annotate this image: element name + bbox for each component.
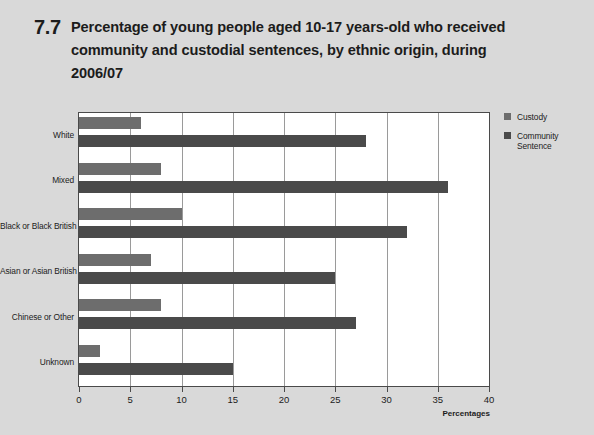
x-axis-tick — [233, 387, 234, 392]
bar-community-sentence — [79, 135, 366, 147]
x-axis-tick — [489, 387, 490, 392]
bar-custody — [79, 345, 100, 357]
x-axis-tick-label: 40 — [484, 394, 495, 405]
bars-layer — [79, 113, 489, 386]
bar-community-sentence — [79, 272, 335, 284]
chart: WhiteMixedBlack or Black BritishAsian or… — [0, 104, 594, 435]
y-axis-label: Unknown — [0, 357, 74, 367]
y-axis-label: White — [0, 130, 74, 140]
x-axis-tick-label: 10 — [176, 394, 187, 405]
x-axis-tick — [335, 387, 336, 392]
x-axis-tick-label: 5 — [128, 394, 133, 405]
bar-custody — [79, 163, 161, 175]
x-axis-tick — [387, 387, 388, 392]
legend: Custody Community Sentence — [504, 112, 590, 160]
bar-group — [79, 341, 489, 387]
legend-swatch-custody-icon — [504, 113, 511, 120]
y-axis-label: Black or Black British — [0, 221, 74, 231]
bar-group — [79, 250, 489, 296]
figure-number: 7.7 — [34, 16, 61, 39]
legend-label-custody: Custody — [517, 112, 547, 122]
x-axis-tick-label: 30 — [381, 394, 392, 405]
bar-custody — [79, 254, 151, 266]
bar-group — [79, 159, 489, 205]
x-axis-tick-label: 0 — [76, 394, 81, 405]
x-axis: Percentages 0510152025303540 — [78, 387, 490, 417]
x-axis-tick — [284, 387, 285, 392]
bar-group — [79, 295, 489, 341]
x-axis-tick — [438, 387, 439, 392]
bar-community-sentence — [79, 181, 448, 193]
bar-custody — [79, 117, 141, 129]
x-axis-tick-label: 25 — [330, 394, 341, 405]
x-axis-tick — [79, 387, 80, 392]
bar-custody — [79, 299, 161, 311]
bar-community-sentence — [79, 226, 407, 238]
x-axis-tick-label: 15 — [227, 394, 238, 405]
plot-area — [78, 112, 490, 387]
x-axis-tick-label: 35 — [432, 394, 443, 405]
bar-group — [79, 204, 489, 250]
y-axis-category-labels: WhiteMixedBlack or Black BritishAsian or… — [0, 112, 74, 387]
bar-community-sentence — [79, 317, 356, 329]
x-axis-title: Percentages — [442, 409, 490, 418]
legend-item-community-sentence: Community Sentence — [504, 131, 590, 151]
bar-group — [79, 113, 489, 159]
y-axis-label: Chinese or Other — [0, 312, 74, 322]
y-axis-label: Asian or Asian British — [0, 266, 74, 276]
figure-title: 7.7 Percentage of young people aged 10-1… — [34, 16, 514, 85]
figure-title-text: Percentage of young people aged 10-17 ye… — [71, 16, 514, 85]
legend-label-community-sentence: Community Sentence — [517, 131, 590, 151]
x-axis-tick-label: 20 — [279, 394, 290, 405]
x-axis-tick — [130, 387, 131, 392]
legend-swatch-community-icon — [504, 132, 511, 139]
legend-item-custody: Custody — [504, 112, 590, 122]
y-axis-label: Mixed — [0, 175, 74, 185]
bar-community-sentence — [79, 363, 233, 375]
bar-custody — [79, 208, 182, 220]
x-axis-tick — [182, 387, 183, 392]
